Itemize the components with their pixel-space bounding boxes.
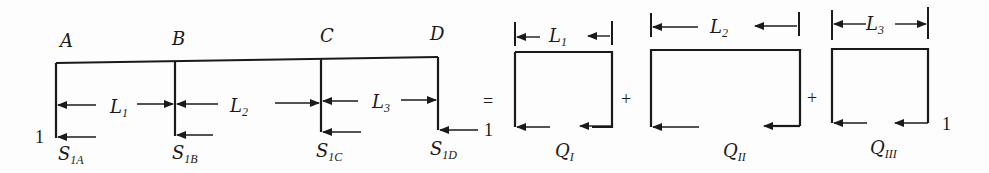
shear-label-s1c: S1C: [316, 140, 343, 164]
diagram-canvas: A B C D L1 L2 L3 1 1 S1A S1B S1C S1D =: [0, 0, 989, 173]
node-label-c: C: [320, 25, 334, 46]
cell-3-outline: [832, 49, 928, 123]
span-label-l2: L2: [229, 95, 248, 119]
frame-decomposition-diagram: A B C D L1 L2 L3 1 1 S1A S1B S1C S1D =: [0, 0, 989, 173]
cell-2-flow-label: QII: [723, 140, 747, 164]
span-label-l3: L3: [371, 91, 390, 115]
cell-3-span-label: L3: [865, 13, 884, 37]
dimension-l2: [177, 103, 319, 104]
shear-label-s1b: S1B: [172, 142, 198, 166]
cell-1-outline: [515, 52, 612, 127]
cell-2-outline: [651, 50, 800, 127]
plus-sign-2: +: [807, 88, 817, 108]
shear-label-s1d: S1D: [430, 138, 457, 162]
span-label-l1: L1: [109, 96, 128, 120]
node-label-b: B: [171, 28, 185, 49]
node-label-a: A: [58, 30, 73, 51]
load-right-value: 1: [484, 120, 493, 140]
node-label-d: D: [429, 23, 445, 44]
cell-3-load-value: 1: [942, 114, 951, 134]
load-left-value: 1: [35, 127, 44, 147]
cell-2-span-label: L2: [709, 16, 728, 40]
cell-1-span-label: L1: [548, 25, 567, 49]
shear-label-s1a: S1A: [58, 143, 84, 167]
plus-sign-1: +: [621, 89, 631, 109]
frame-top-beam: [56, 57, 438, 63]
equals-sign: =: [483, 91, 493, 111]
shear-arrows: [58, 130, 478, 137]
cell-1-flow-label: QI: [555, 140, 575, 164]
cell-3-flow-label: QIII: [870, 137, 898, 161]
